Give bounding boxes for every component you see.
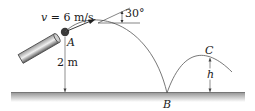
velocity-label: v = 6 m/s: [41, 11, 94, 24]
height-2m-label: 2 m: [57, 56, 78, 69]
height-h-label: h: [207, 68, 214, 81]
angle-label: 30°: [125, 7, 145, 20]
point-c-label: C: [205, 44, 214, 57]
projectile-diagram: v = 6 m/s 30° A 2 m B C h: [0, 0, 255, 111]
trajectory-a-b: [65, 20, 167, 93]
point-a-label: A: [66, 36, 75, 49]
ground: [11, 93, 245, 103]
trajectory-b-c: [167, 55, 232, 93]
cannon: [18, 33, 61, 64]
point-b-label: B: [162, 98, 171, 111]
